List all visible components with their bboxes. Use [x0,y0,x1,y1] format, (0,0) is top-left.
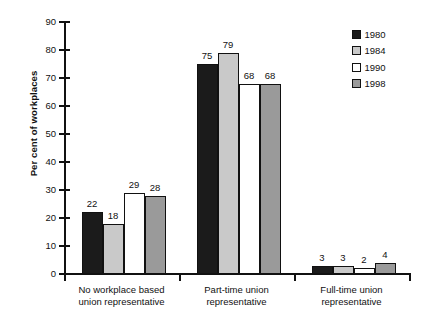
bar-1998-3 [375,263,396,274]
category-label-3: Full-time unionrepresentative [294,284,409,308]
bar-group: 22182928 [82,22,166,274]
category-label-2: Part-time unionrepresentative [179,284,294,308]
y-axis-tick-label: 60 [28,101,56,111]
category-label-line: Full-time union [294,284,409,296]
bar-1984-1 [103,224,124,274]
x-axis-tick [179,274,181,281]
bar-chart: Per cent of workplaces 01020304050607080… [0,0,428,328]
y-axis-tick-label: 70 [28,73,56,83]
y-axis-tick-label: 50 [28,129,56,139]
legend: 1980198419901998 [352,26,386,92]
category-label-line: representative [179,296,294,308]
y-axis-tick-label: 90 [28,17,56,27]
bar-1990-3 [354,268,375,274]
legend-label: 1980 [365,30,386,40]
y-axis-tick-label: 40 [28,157,56,167]
legend-swatch-icon [352,46,361,55]
legend-item-1980[interactable]: 1980 [352,26,386,43]
legend-swatch-icon [352,63,361,72]
bar-value-label: 28 [140,183,171,193]
bar-1980-3 [312,266,333,274]
bar-value-label: 79 [213,40,244,50]
category-label-1: No workplace basedunion representative [64,284,179,308]
x-axis-tick [64,274,66,281]
legend-label: 1998 [365,79,386,89]
y-axis-tick-label: 10 [28,241,56,251]
y-axis-tick-label: 30 [28,185,56,195]
legend-swatch-icon [352,30,361,39]
legend-swatch-icon [352,79,361,88]
y-axis-tick-label: 0 [28,269,56,279]
x-axis-tick [294,274,296,281]
category-label-line: union representative [64,296,179,308]
bar-1980-1 [82,212,103,274]
bar-1984-3 [333,266,354,274]
legend-item-1998[interactable]: 1998 [352,76,386,93]
legend-item-1984[interactable]: 1984 [352,43,386,60]
x-axis-tick [409,274,411,281]
bar-value-label: 4 [370,250,401,260]
bar-value-label: 22 [77,199,108,209]
bar-1990-1 [124,193,145,274]
bar-value-label: 68 [255,71,286,81]
category-label-line: Part-time union [179,284,294,296]
y-axis-tick-label: 80 [28,45,56,55]
bar-1990-2 [239,84,260,274]
y-axis-tick-label: 20 [28,213,56,223]
legend-item-1990[interactable]: 1990 [352,59,386,76]
bar-group: 75796868 [197,22,281,274]
category-label-line: No workplace based [64,284,179,296]
legend-label: 1990 [365,63,386,73]
bar-1998-1 [145,196,166,274]
bar-1998-2 [260,84,281,274]
bar-1984-2 [218,53,239,274]
category-label-line: representative [294,296,409,308]
bar-1980-2 [197,64,218,274]
legend-label: 1984 [365,46,386,56]
